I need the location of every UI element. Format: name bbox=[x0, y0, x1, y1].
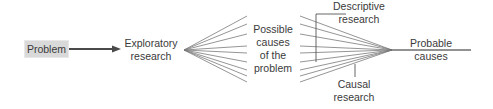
possible-causes-line3: of the bbox=[246, 49, 300, 62]
causal-research-label: Causal research bbox=[324, 78, 384, 104]
possible-causes-label: Possible causes of the problem bbox=[246, 23, 300, 75]
fan-out-lines bbox=[184, 16, 247, 82]
arrow-problem-to-exploratory bbox=[69, 46, 121, 53]
possible-causes-line2: causes bbox=[246, 36, 300, 49]
descriptive-research-label: Descriptive research bbox=[327, 0, 391, 26]
problem-label: Problem bbox=[27, 43, 66, 55]
causal-line1: Causal bbox=[324, 78, 384, 91]
problem-box: Problem bbox=[24, 40, 69, 58]
exploratory-line2: research bbox=[118, 50, 184, 63]
probable-causes-line1: Probable bbox=[399, 37, 463, 50]
probable-causes-label: Probable causes bbox=[399, 37, 463, 63]
exploratory-line1: Exploratory bbox=[118, 37, 184, 50]
possible-causes-line1: Possible bbox=[246, 23, 300, 36]
descriptive-line1: Descriptive bbox=[327, 0, 391, 13]
probable-causes-line2: causes bbox=[399, 50, 463, 63]
possible-causes-line4: problem bbox=[246, 62, 300, 75]
descriptive-line2: research bbox=[327, 13, 391, 26]
exploratory-research-label: Exploratory research bbox=[118, 37, 184, 63]
causal-line2: research bbox=[324, 91, 384, 104]
